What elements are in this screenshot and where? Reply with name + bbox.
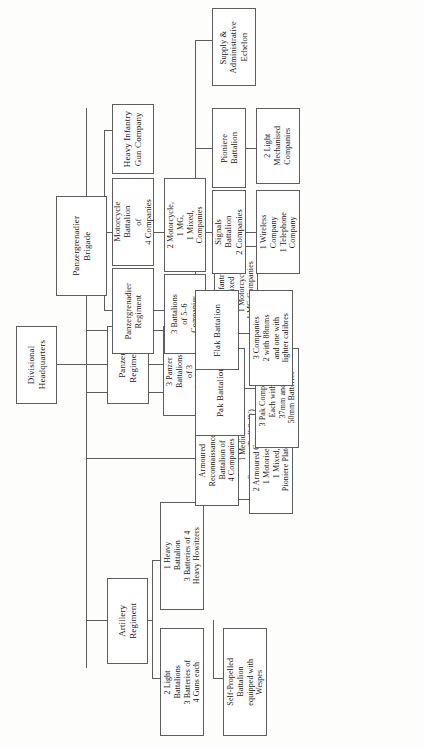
node-signals-battalion-detail[interactable]: 1 Wireless Company 1 Telephone Company bbox=[256, 190, 300, 274]
node-label: Pioniere Battalion bbox=[219, 132, 240, 164]
node-label: Pak Battalion bbox=[215, 367, 226, 417]
node-divisional-headquarters[interactable]: Divisional Headquarters bbox=[16, 326, 57, 404]
node-panzergrenadier-regiment[interactable]: Panzergrenadier Regiment bbox=[112, 268, 154, 354]
node-label: Panzergrenadier Brigade bbox=[71, 216, 93, 276]
node-label: 1 Wireless Company 1 Telephone Company bbox=[259, 212, 298, 252]
node-label: 3 Companies 2 with 88mms and one with li… bbox=[252, 313, 291, 362]
node-label: 2 Motorcycle, 1 MG, 1 Mixed, Companies bbox=[166, 202, 205, 248]
node-label: Panzergrenadier Regiment bbox=[123, 283, 144, 340]
node-label: Signals Battalion 2 Companies bbox=[213, 209, 244, 255]
connector-rightspine-to-pioniere bbox=[195, 148, 212, 149]
node-panzergrenadier-brigade[interactable]: Panzergrenadier Brigade bbox=[56, 196, 107, 296]
node-artillery-light-battalions[interactable]: 2 Light Battalions 3 Batteries of 4 Guns… bbox=[160, 628, 204, 736]
connector-rightspine-to-supply bbox=[195, 40, 212, 41]
org-chart: Divisional Headquarters Panzer Regiment … bbox=[0, 0, 424, 747]
node-label: Motorcycle Battalion of 4 Companies bbox=[112, 199, 153, 245]
node-label: Self-Propelled Battalion equipped with W… bbox=[226, 658, 265, 706]
node-signals-battalion[interactable]: Signals Battalion 2 Companies bbox=[212, 190, 246, 274]
node-artillery-regiment[interactable]: Artillery Regiment bbox=[107, 578, 148, 664]
node-label: Heavy Infantry Gun Company bbox=[122, 111, 144, 167]
node-artillery-selfpropelled-battalion[interactable]: Self-Propelled Battalion equipped with W… bbox=[223, 628, 267, 736]
connector-artillery-to-light bbox=[152, 678, 160, 679]
node-pioniere-battalion-detail[interactable]: 2 Light Mechanised Companies bbox=[256, 108, 300, 184]
node-label: Artillery Regiment bbox=[117, 603, 139, 639]
node-label: Supply & Administrative Echelon bbox=[218, 21, 249, 73]
node-flak-battalion[interactable]: Flak Battalion bbox=[195, 290, 239, 370]
connector-spine-to-recon bbox=[86, 458, 195, 459]
node-supply-administrative-echelon[interactable]: Supply & Administrative Echelon bbox=[212, 8, 256, 86]
connector-panzer-regiment-to-detail bbox=[149, 364, 163, 365]
node-motorcycle-battalion[interactable]: Motorcycle Battalion of 4 Companies bbox=[112, 178, 154, 266]
connector-brigade-to-heavy-inf-gun bbox=[104, 130, 112, 131]
node-label: Armoured Reconnaissance Battalion of 4 C… bbox=[198, 434, 237, 487]
connector-brigade-to-pzgren-regiment bbox=[104, 310, 112, 311]
node-label: 2 Light Mechanised Companies bbox=[263, 126, 292, 166]
node-artillery-heavy-battalion[interactable]: 1 Heavy Battalion 3 Batteries of 4 Heavy… bbox=[160, 502, 204, 610]
connector-motorcycle-to-detail bbox=[154, 232, 164, 233]
connector-artillery-to-children bbox=[148, 620, 152, 621]
node-pioniere-battalion[interactable]: Pioniere Battalion bbox=[212, 108, 246, 188]
node-heavy-infantry-gun-company[interactable]: Heavy Infantry Gun Company bbox=[112, 104, 154, 174]
connector-artillery-to-heavy bbox=[152, 560, 160, 561]
node-motorcycle-battalion-detail[interactable]: 2 Motorcycle, 1 MG, 1 Mixed, Companies bbox=[164, 178, 206, 272]
connector-pioniere-to-detail bbox=[246, 148, 256, 149]
connector-spine-to-panzer-regiment bbox=[86, 364, 107, 365]
node-label: Flak Battalion bbox=[212, 304, 223, 357]
connector-artillery-sp-stub bbox=[213, 678, 223, 679]
connector-spine-to-artillery bbox=[86, 620, 107, 621]
connector-signals-to-detail bbox=[246, 232, 256, 233]
node-label: Divisional Headquarters bbox=[26, 340, 48, 389]
node-flak-battalion-detail[interactable]: 3 Companies 2 with 88mms and one with li… bbox=[249, 290, 293, 386]
connector-hq-to-spine bbox=[57, 364, 86, 365]
connector-pzgren-regiment-to-detail bbox=[154, 310, 164, 311]
node-label: 1 Heavy Battalion 3 Batteries of 4 Heavy… bbox=[163, 527, 202, 584]
connector-main-spine bbox=[86, 108, 87, 668]
connector-artillery-sp-drop bbox=[213, 620, 214, 678]
connector-artillery-children-spine bbox=[152, 560, 153, 678]
node-label: 2 Light Battalions 3 Batteries of 4 Guns… bbox=[163, 660, 202, 705]
